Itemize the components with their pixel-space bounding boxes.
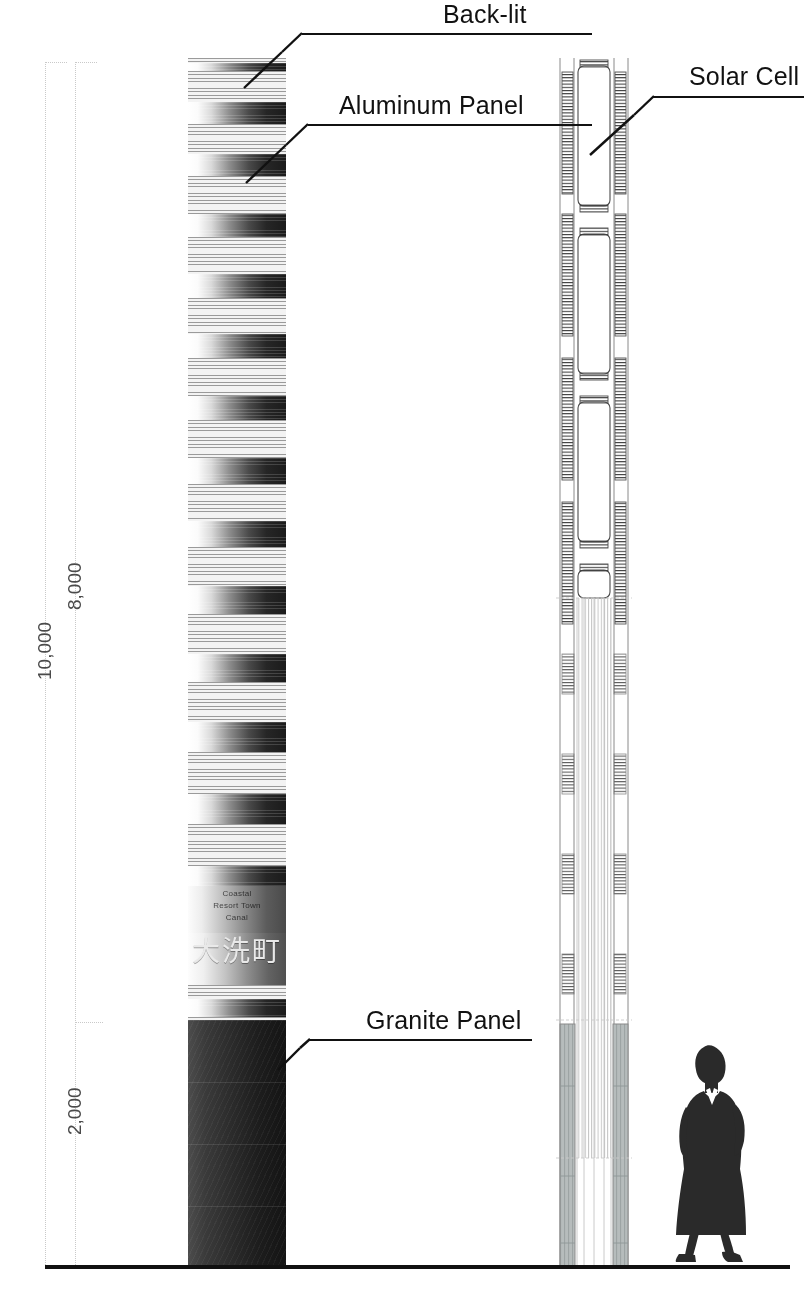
callout-underline-aluminum-panel	[308, 124, 592, 126]
dimension-tick-overall-top	[45, 62, 67, 63]
callout-underline-back-lit	[302, 33, 592, 35]
callout-underline-granite-panel	[308, 1039, 532, 1041]
panel-band-hatch	[188, 420, 286, 458]
panel-band-hatch	[188, 682, 286, 722]
dimension-label-base: 2,000	[64, 1087, 86, 1135]
panel-band-backlit	[188, 654, 286, 682]
ground-line	[45, 1265, 790, 1269]
dimension-line-upper	[75, 62, 76, 1267]
panel-band-hatch	[188, 547, 286, 586]
panel-band-backlit	[188, 396, 286, 420]
callout-label-solar-cell: Solar Cell	[689, 64, 799, 89]
panel-band-hatch	[188, 237, 286, 274]
leader-line-solar-cell	[590, 93, 656, 157]
signage-latin-line-2: Resort Town	[188, 901, 286, 912]
callout-underline-solar-cell	[653, 96, 804, 98]
tower-section-linework	[556, 58, 632, 1267]
leader-line-back-lit	[244, 30, 314, 92]
panel-band-backlit	[188, 214, 286, 237]
callout-label-aluminum-panel: Aluminum Panel	[339, 93, 524, 118]
callout-label-granite-panel: Granite Panel	[366, 1008, 521, 1033]
leader-line-granite-panel	[278, 1036, 312, 1072]
dimension-label-upper: 8,000	[64, 562, 86, 610]
panel-band-backlit	[188, 586, 286, 614]
panel-band-backlit	[188, 794, 286, 824]
panel-band-hatch	[188, 358, 286, 396]
panel-band-backlit	[188, 722, 286, 752]
signage-cjk-text: 大洗町	[188, 937, 286, 967]
dimension-tick-base-split	[75, 1022, 103, 1023]
human-scale-figure	[660, 1043, 776, 1267]
panel-band-hatch	[188, 824, 286, 866]
callout-label-back-lit: Back-lit	[443, 2, 527, 27]
leader-line-aluminum-panel	[246, 121, 312, 187]
panel-band-hatch	[188, 985, 286, 999]
signage-plate-cjk: 大洗町	[188, 933, 286, 985]
dimension-tick-upper-top	[75, 62, 97, 63]
granite-base-panels	[188, 1020, 286, 1267]
panel-band-backlit	[188, 999, 286, 1017]
panel-band-backlit	[188, 334, 286, 358]
signage-latin-line-3: Canal	[188, 913, 286, 924]
panel-band-hatch	[188, 298, 286, 334]
panel-band-hatch	[188, 752, 286, 794]
dimension-label-overall: 10,000	[34, 622, 56, 680]
signage-plate-latin: Coastal Resort Town Canal	[188, 886, 286, 938]
tower-section	[556, 58, 632, 1267]
panel-band-hatch	[188, 614, 286, 654]
tower-elevation: Coastal Resort Town Canal 大洗町	[188, 58, 286, 1267]
drawing-canvas: 10,000 8,000 2,000 Co	[0, 0, 804, 1291]
panel-band-backlit	[188, 458, 286, 484]
signage-latin-line-1: Coastal	[188, 889, 286, 900]
panel-band-backlit	[188, 521, 286, 547]
panel-band-backlit	[188, 274, 286, 298]
panel-band-hatch	[188, 484, 286, 521]
